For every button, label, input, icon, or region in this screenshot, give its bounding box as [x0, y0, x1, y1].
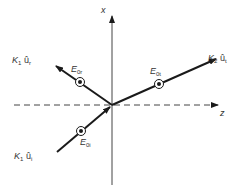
- field-out-of-page-icon-incident: [77, 127, 86, 136]
- reflected-field-label: E0r: [71, 65, 82, 75]
- transmitted-field-label: E0t: [150, 67, 161, 77]
- field-out-of-page-icon-reflected: [76, 78, 85, 87]
- incident-field-label: E0i: [80, 138, 91, 148]
- reflected-wave-vector-label: K1 ûr: [12, 56, 31, 66]
- x-axis-label: x: [101, 6, 106, 15]
- field-out-of-page-icon-transmitted: [155, 80, 164, 89]
- transmitted-wave-vector-label: K2 ût: [208, 54, 227, 64]
- reflected-ray: [56, 66, 112, 105]
- z-axis-label: z: [220, 109, 225, 118]
- incident-wave-vector-label: K1 ûi: [14, 152, 32, 162]
- transmitted-ray: [112, 59, 216, 105]
- diagram-canvas: [0, 0, 241, 187]
